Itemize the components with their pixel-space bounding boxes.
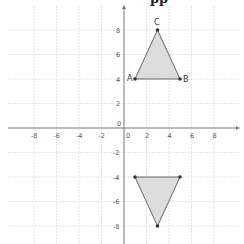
- point-a: [133, 77, 137, 81]
- y-tick: -8: [113, 223, 119, 231]
- y-tick: -6: [113, 198, 119, 206]
- point-c-prime: [156, 224, 160, 228]
- x-tick: -6: [54, 132, 60, 140]
- x-axis-arrow-icon: [236, 126, 240, 130]
- point-b: [178, 77, 182, 81]
- triangle-abc: A B C: [127, 18, 189, 84]
- x-tick: 4: [168, 132, 172, 140]
- y-tick: -2: [113, 149, 119, 157]
- label-b: B: [183, 75, 189, 84]
- x-tick: 8: [213, 132, 217, 140]
- y-tick: 4: [116, 76, 120, 84]
- x-tick: -8: [31, 132, 37, 140]
- point-c: [156, 28, 160, 32]
- axes: [8, 7, 238, 244]
- y-axis-arrow-icon: [122, 5, 126, 9]
- x-tick: 6: [190, 132, 194, 140]
- y-tick: 8: [116, 27, 120, 35]
- label-c: C: [154, 18, 160, 27]
- x-tick: -2: [99, 132, 105, 140]
- point-b-prime: [178, 175, 182, 179]
- x-tick: -4: [76, 132, 82, 140]
- x-tick: 2: [145, 132, 149, 140]
- origin-label: 0: [117, 120, 121, 128]
- x-tick: 0: [126, 132, 130, 140]
- point-a-prime: [133, 175, 137, 179]
- y-tick: 6: [116, 51, 120, 59]
- coordinate-plane: -8 -6 -4 -2 0 2 4 6 8 0 8 6 4 2 -2 -4 -6…: [0, 0, 244, 244]
- label-a: A: [127, 74, 133, 83]
- y-tick: 2: [116, 100, 120, 108]
- y-tick: -4: [113, 174, 119, 182]
